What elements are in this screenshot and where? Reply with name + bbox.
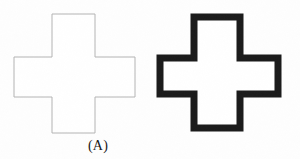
figure-container: (A)	[0, 0, 300, 159]
panel-a-caption: (A)	[78, 137, 118, 154]
thick-cross-polygon	[160, 17, 278, 128]
thick-outline-cross	[0, 0, 300, 159]
